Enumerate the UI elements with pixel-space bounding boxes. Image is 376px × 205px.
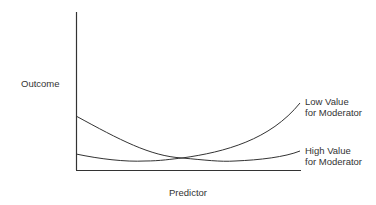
low-label-line1: Low Value (305, 96, 362, 107)
low-moderator-label: Low Value for Moderator (305, 96, 362, 118)
high-moderator-curve (76, 116, 300, 161)
x-axis-label: Predictor (169, 187, 207, 198)
high-label-line1: High Value (305, 145, 362, 156)
high-moderator-label: High Value for Moderator (305, 145, 362, 167)
high-label-line2: for Moderator (305, 156, 362, 167)
low-label-line2: for Moderator (305, 107, 362, 118)
y-axis-label: Outcome (21, 78, 60, 89)
low-moderator-curve (76, 103, 300, 161)
